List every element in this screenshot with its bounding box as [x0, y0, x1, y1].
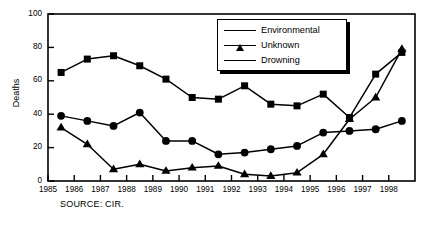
source-note: SOURCE: CIR.: [60, 199, 124, 209]
y-tick-label: 0: [18, 176, 42, 185]
legend-item-drowning: Drowning: [224, 53, 300, 68]
chart-figure: Deaths 020406080100 19851986198719881989…: [0, 0, 438, 230]
legend-label-unknown: Unknown: [261, 41, 299, 50]
legend-label-drowning: Drowning: [261, 56, 300, 65]
x-axis-ticks: [48, 175, 389, 181]
y-tick-label: 20: [18, 142, 42, 151]
chart-legend: Environmental Unknown Drowning: [217, 19, 347, 71]
y-tick-label: 40: [18, 109, 42, 118]
legend-label-environmental: Environmental: [261, 26, 320, 35]
x-tick-label: 1998: [374, 185, 404, 194]
circle-marker-icon: [224, 40, 256, 52]
triangle-marker-icon: [224, 25, 256, 37]
legend-item-environmental: Environmental: [224, 23, 320, 38]
y-axis-ticks: [48, 14, 54, 181]
y-tick-label: 100: [18, 9, 42, 18]
legend-item-unknown: Unknown: [224, 38, 299, 53]
y-tick-label: 80: [18, 42, 42, 51]
square-marker-icon: [224, 55, 256, 67]
y-tick-label: 60: [18, 75, 42, 84]
